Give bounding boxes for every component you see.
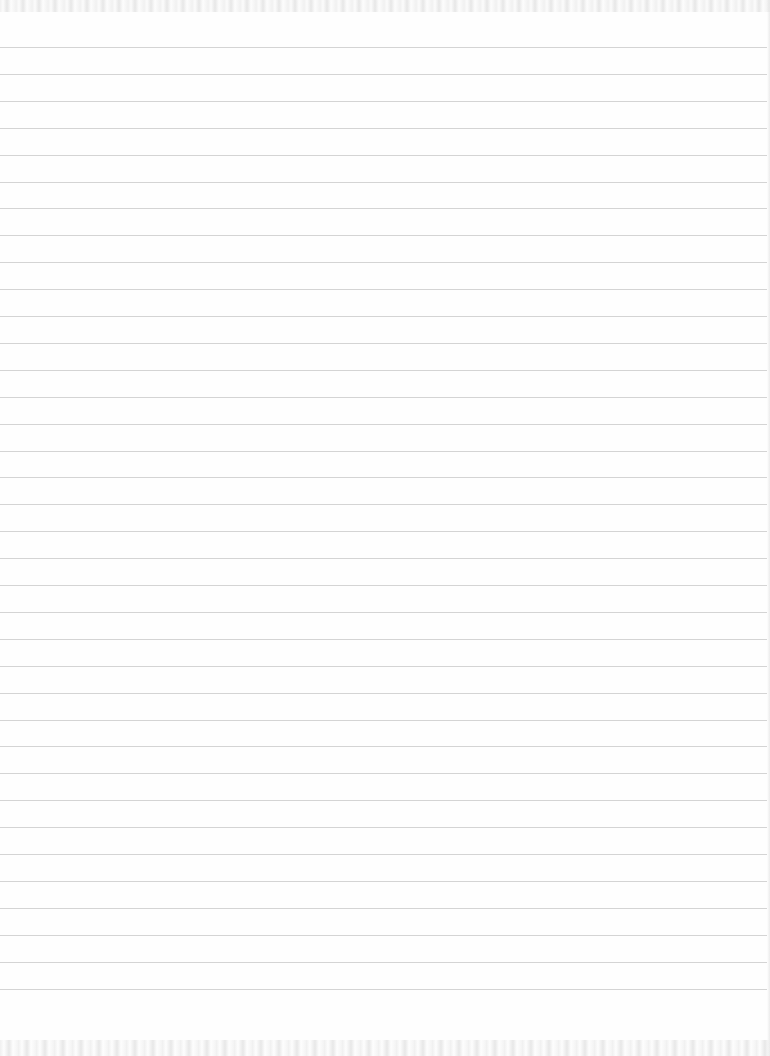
ruled-line	[0, 612, 767, 613]
ruled-line	[0, 908, 767, 909]
ruled-line	[0, 854, 767, 855]
ruled-line	[0, 47, 767, 48]
ruled-line	[0, 720, 767, 721]
lined-paper-sheet	[0, 0, 770, 1056]
ruled-line	[0, 208, 767, 209]
ruled-line	[0, 424, 767, 425]
ruled-line	[0, 477, 767, 478]
ruled-line	[0, 962, 767, 963]
ruled-line	[0, 101, 767, 102]
ruled-line	[0, 585, 767, 586]
ruled-line	[0, 343, 767, 344]
ruled-line	[0, 155, 767, 156]
ruled-line	[0, 182, 767, 183]
ruled-line	[0, 397, 767, 398]
ruled-line	[0, 504, 767, 505]
ruled-line	[0, 773, 767, 774]
ruled-line	[0, 74, 767, 75]
ruled-line	[0, 128, 767, 129]
ruled-line	[0, 370, 767, 371]
ruled-line	[0, 989, 767, 990]
ruled-line	[0, 262, 767, 263]
ruled-line	[0, 693, 767, 694]
ruled-line	[0, 639, 767, 640]
ruled-line	[0, 558, 767, 559]
ruled-line	[0, 451, 767, 452]
ruled-line	[0, 827, 767, 828]
ruled-line	[0, 881, 767, 882]
ruled-line	[0, 800, 767, 801]
scan-noise-bottom-edge	[0, 1040, 770, 1056]
ruled-line	[0, 316, 767, 317]
ruled-line	[0, 935, 767, 936]
ruled-line	[0, 235, 767, 236]
ruled-line	[0, 666, 767, 667]
scan-noise-top-edge	[0, 0, 770, 12]
ruled-line	[0, 746, 767, 747]
ruled-line	[0, 531, 767, 532]
ruled-line	[0, 289, 767, 290]
